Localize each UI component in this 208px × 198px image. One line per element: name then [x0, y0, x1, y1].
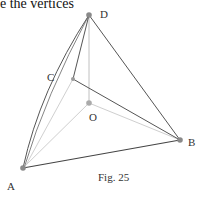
label-D: D [100, 8, 108, 20]
label-O: O [89, 111, 97, 123]
point-O [86, 100, 92, 106]
label-C: C [47, 71, 54, 83]
point-C [71, 77, 75, 81]
figure-caption: Fig. 25 [98, 171, 129, 183]
edge-AD [23, 15, 89, 168]
edge-AD-2 [24, 15, 89, 168]
point-D [86, 12, 92, 18]
edge-CB [73, 79, 180, 140]
label-B: B [188, 136, 195, 148]
tetrahedron-figure [0, 0, 208, 198]
label-A: A [7, 180, 15, 192]
point-B [177, 137, 183, 143]
edge-CA-light [26, 79, 73, 165]
point-A [20, 165, 26, 171]
edge-CD [73, 15, 89, 79]
